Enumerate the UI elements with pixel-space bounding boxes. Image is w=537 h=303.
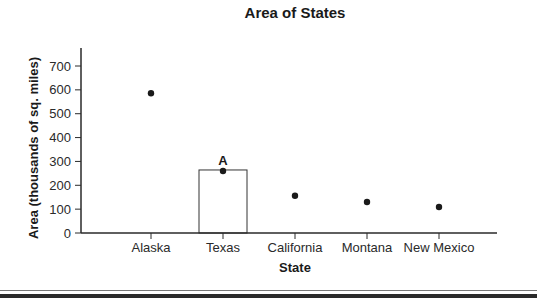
- y-tick-label: 500: [49, 106, 71, 121]
- data-point: [220, 168, 226, 174]
- data-point: [364, 199, 370, 205]
- x-tick-label: Montana: [342, 240, 393, 255]
- y-tick-label: 600: [49, 82, 71, 97]
- divider-thick: [0, 294, 537, 298]
- x-tick-label: California: [268, 240, 324, 255]
- data-point: [292, 193, 298, 199]
- y-tick-label: 400: [49, 130, 71, 145]
- annotation-label: A: [218, 153, 228, 168]
- y-tick-label: 0: [64, 226, 71, 241]
- y-tick-label: 700: [49, 59, 71, 74]
- data-point: [148, 90, 154, 96]
- data-point: [436, 204, 442, 210]
- x-tick-label: Alaska: [131, 240, 171, 255]
- divider-thin: [0, 290, 537, 291]
- highlight-bar: [199, 170, 247, 233]
- y-tick-label: 100: [49, 202, 71, 217]
- y-tick-label: 200: [49, 178, 71, 193]
- plot-area: 0100200300400500600700AlaskaTexasCalifor…: [0, 0, 537, 303]
- x-tick-label: New Mexico: [404, 240, 475, 255]
- x-tick-label: Texas: [206, 240, 240, 255]
- y-tick-label: 300: [49, 154, 71, 169]
